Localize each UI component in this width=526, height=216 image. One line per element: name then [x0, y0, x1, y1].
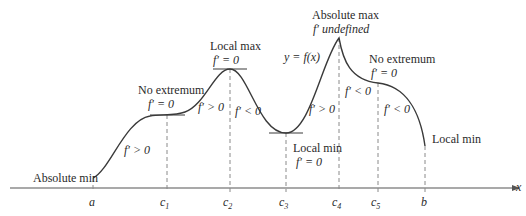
end-local-min-label: Local min: [432, 133, 481, 146]
tick-c1: c1: [160, 196, 169, 213]
curve-label: y = f(x): [284, 51, 320, 64]
absolute-min-label: Absolute min: [33, 172, 98, 185]
sign-c1-c2: f′ > 0: [198, 101, 224, 114]
tick-b: b: [421, 196, 427, 209]
sign-c5-b: f′ < 0: [384, 103, 410, 116]
sign-c3-c4: f′ > 0: [309, 103, 335, 116]
extrema-diagram: a c1 c2 c3 c4 c5 b x Absolute min No ext…: [0, 0, 526, 216]
no-extremum-2-cond: f′ = 0: [371, 67, 397, 80]
local-max-cond: f′ = 0: [213, 54, 239, 67]
sign-a-c1: f′ > 0: [124, 144, 150, 157]
tick-c2: c2: [223, 196, 232, 213]
local-max-title: Local max: [210, 40, 261, 53]
x-axis-label: x: [516, 181, 521, 194]
tick-c4: c4: [332, 196, 341, 213]
tick-c3: c3: [279, 196, 288, 213]
sign-c4-c5: f′ < 0: [345, 85, 371, 98]
sign-c2-c3: f′ < 0: [235, 105, 261, 118]
local-min-cond: f′ = 0: [296, 156, 322, 169]
no-extremum-2-title: No extremum: [369, 53, 435, 66]
tick-a: a: [89, 196, 95, 209]
absolute-max-title: Absolute max: [312, 9, 379, 22]
absolute-max-cond: f′ undefined: [313, 23, 369, 36]
no-extremum-1-title: No extremum: [138, 84, 204, 97]
local-min-title: Local min: [293, 142, 342, 155]
no-extremum-1-cond: f′ = 0: [148, 98, 174, 111]
tick-c5: c5: [371, 196, 380, 213]
